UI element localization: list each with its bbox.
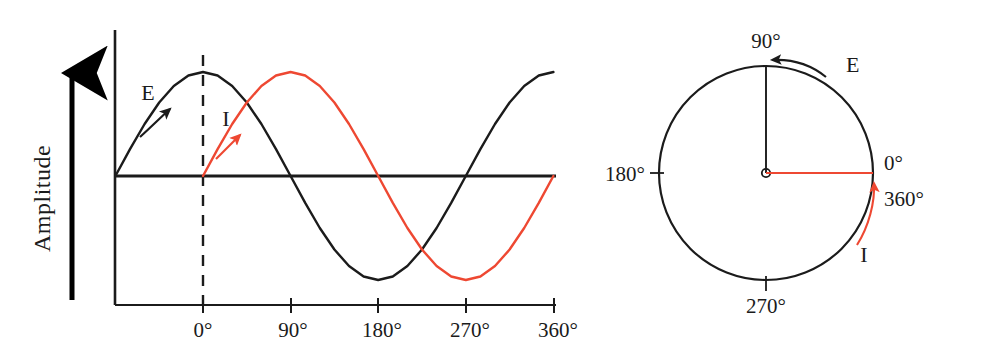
x-tick-label-360: 360° (538, 318, 578, 342)
figure-root: Amplitude 0° 90° 180° 270° 360° (0, 0, 983, 355)
current-phasor-label: I (860, 242, 867, 267)
voltage-curve-label: E (141, 80, 154, 105)
phasor-label-180: 180° (605, 162, 645, 186)
phasor-label-90: 90° (751, 29, 780, 53)
voltage-phasor-label: E (846, 52, 859, 77)
phasor-label-0: 0° (884, 151, 903, 175)
voltage-rotation-arrow (772, 60, 826, 77)
x-tick-label-180: 180° (362, 318, 402, 342)
phasor-panel: E I 90° 180° 270° 0° 360° (605, 29, 924, 318)
y-axis-title: Amplitude (29, 145, 55, 252)
phasor-label-360: 360° (884, 187, 924, 211)
figure-canvas: Amplitude 0° 90° 180° 270° 360° (0, 0, 983, 355)
current-curve-label: I (222, 106, 229, 131)
x-tick-label-90: 90° (278, 318, 307, 342)
x-tick-label-270: 270° (450, 318, 490, 342)
x-tick-label-0: 0° (194, 318, 213, 342)
waveform-panel: Amplitude 0° 90° 180° 270° 360° (29, 30, 578, 342)
phasor-label-270: 270° (746, 294, 786, 318)
